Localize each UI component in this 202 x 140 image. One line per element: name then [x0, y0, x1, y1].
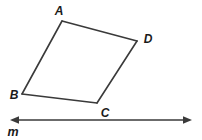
line-label-m: m [7, 125, 18, 139]
vertex-label-C: C [101, 106, 110, 120]
vertex-label-B: B [10, 88, 19, 102]
edge-CB [22, 94, 97, 103]
geometry-canvas: A B C D m [0, 0, 202, 140]
quadrilateral-ABCD [22, 21, 137, 103]
edge-DC [97, 41, 137, 103]
vertex-label-A: A [54, 4, 64, 18]
arrowhead-right-icon [183, 116, 192, 124]
edge-AD [62, 21, 137, 41]
vertex-label-D: D [144, 32, 153, 46]
geometry-figure: A B C D m [0, 0, 202, 140]
edge-BA [22, 21, 62, 94]
arrowhead-left-icon [10, 116, 19, 124]
